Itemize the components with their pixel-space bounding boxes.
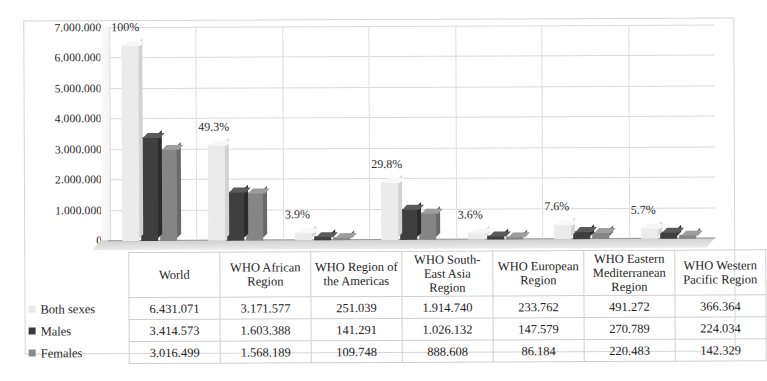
bar xyxy=(314,236,331,240)
series-label: Females xyxy=(41,346,83,360)
table-cell: 888.608 xyxy=(402,340,493,362)
table-cell: 142.329 xyxy=(675,339,766,361)
bar-front-face xyxy=(641,228,658,239)
table-cell: 1.914.740 xyxy=(402,296,493,318)
swatch-males-icon xyxy=(29,327,36,334)
data-table-wrapper: WorldWHO African RegionWHO Region of the… xyxy=(24,249,735,354)
bars-container xyxy=(109,28,196,241)
bar-front-face xyxy=(227,192,244,241)
table-corner-cell xyxy=(24,253,129,298)
bar-group: 7.6% xyxy=(541,26,628,239)
swatch-females-icon xyxy=(29,349,36,356)
swatch-both-sexes-icon xyxy=(28,305,35,312)
table-row-header: Males xyxy=(25,320,130,342)
bar-front-face xyxy=(141,137,158,241)
table-cell: 6.431.071 xyxy=(129,297,220,319)
bar xyxy=(679,234,696,238)
bars-container xyxy=(541,26,628,239)
table-column-header: WHO European Region xyxy=(493,251,584,296)
series-label: Both sexes xyxy=(40,302,95,316)
y-axis-tick-label: 2.000.000 xyxy=(55,173,102,185)
series-label: Males xyxy=(41,324,72,338)
bar-top-face xyxy=(594,228,616,233)
bar-group: 29.8% xyxy=(369,27,456,240)
plot-area: 100%49.3%3.9%29.8%3.6%7.6%5.7% xyxy=(109,25,715,242)
table-cell: 1.568.189 xyxy=(220,341,311,363)
y-axis-tick-label: 6.000.000 xyxy=(54,52,101,64)
table-cell: 1.026.132 xyxy=(402,318,493,340)
y-axis-tick-label: 1.000.000 xyxy=(55,204,102,216)
bar-front-face xyxy=(419,213,436,240)
bar-front-face xyxy=(208,144,225,241)
table-head: WorldWHO African RegionWHO Region of the… xyxy=(24,250,766,298)
y-axis-tick-label: 4.000.000 xyxy=(55,112,102,124)
y-axis-tick-label: 7.000.000 xyxy=(54,21,101,33)
table-column-header: World xyxy=(129,252,220,297)
bar xyxy=(121,45,139,241)
bar xyxy=(468,232,485,239)
bar-chart: 7.000.0006.000.0005.000.0004.000.0003.00… xyxy=(23,17,735,244)
table-body: Both sexes6.431.0713.171.577251.0391.914… xyxy=(24,295,766,364)
table-row-header: Both sexes xyxy=(24,298,129,320)
data-table: WorldWHO African RegionWHO Region of the… xyxy=(24,249,766,364)
table-header-row: WorldWHO African RegionWHO Region of the… xyxy=(24,250,766,298)
bar xyxy=(660,232,677,239)
y-axis-tick-label: 3.000.000 xyxy=(55,143,102,155)
bar-group: 3.9% xyxy=(282,27,369,240)
bar-top-face xyxy=(489,231,511,236)
bar-front-face xyxy=(160,149,177,241)
bar xyxy=(592,232,609,239)
bar xyxy=(641,228,658,239)
bar xyxy=(246,193,263,241)
bar-front-face xyxy=(381,182,398,240)
y-axis-tick-label: 5.000.000 xyxy=(55,82,102,94)
bars-container xyxy=(628,26,715,239)
table-cell: 141.291 xyxy=(311,318,402,340)
bar xyxy=(400,209,417,240)
table-row: Females3.016.4991.568.189109.748888.6088… xyxy=(25,339,766,364)
table-cell: 86.184 xyxy=(493,340,584,362)
table-cell: 224.034 xyxy=(675,317,766,339)
bar-front-face xyxy=(660,232,677,239)
bar xyxy=(227,192,244,241)
bar-group: 5.7% xyxy=(628,26,715,239)
table-cell: 220.483 xyxy=(584,339,675,361)
table-cell: 147.579 xyxy=(493,318,584,340)
bar xyxy=(208,144,225,241)
bars-container xyxy=(196,27,283,240)
table-cell: 1.603.388 xyxy=(220,319,311,341)
table-cell: 3.414.573 xyxy=(129,319,220,341)
bar-group: 100% xyxy=(109,28,196,241)
bar-top-face xyxy=(681,230,703,235)
bar-front-face xyxy=(400,209,417,240)
bar-front-face xyxy=(592,232,609,239)
y-axis: 7.000.0006.000.0005.000.0004.000.0003.00… xyxy=(23,20,108,244)
table-column-header: WHO African Region xyxy=(220,252,311,297)
table-cell: 109.748 xyxy=(311,340,402,362)
bars-container xyxy=(455,26,542,239)
bar-front-face xyxy=(295,233,312,241)
bar-group: 3.6% xyxy=(455,26,542,239)
table-row: Males3.414.5731.603.388141.2911.026.1321… xyxy=(25,317,766,342)
table-cell: 251.039 xyxy=(311,296,402,318)
bar-top-face xyxy=(508,233,530,238)
bar xyxy=(419,213,436,240)
bar xyxy=(333,237,350,240)
bar xyxy=(573,231,590,239)
bar-front-face xyxy=(246,193,263,241)
bar-front-face xyxy=(554,224,571,239)
table-cell: 491.272 xyxy=(584,295,675,317)
bar xyxy=(160,149,177,241)
table-row: Both sexes6.431.0713.171.577251.0391.914… xyxy=(24,295,765,320)
bars-container xyxy=(369,27,456,240)
table-column-header: WHO South-East Asia Region xyxy=(402,251,493,296)
bar xyxy=(554,224,571,239)
table-cell: 3.171.577 xyxy=(220,297,311,319)
table-cell: 366.364 xyxy=(675,295,766,317)
bar xyxy=(295,233,312,241)
table-row-header: Females xyxy=(25,342,130,364)
table-cell: 233.762 xyxy=(493,296,584,318)
bar xyxy=(381,182,398,240)
bars-container xyxy=(282,27,369,240)
table-column-header: WHO Eastern Mediterranean Region xyxy=(584,250,675,295)
